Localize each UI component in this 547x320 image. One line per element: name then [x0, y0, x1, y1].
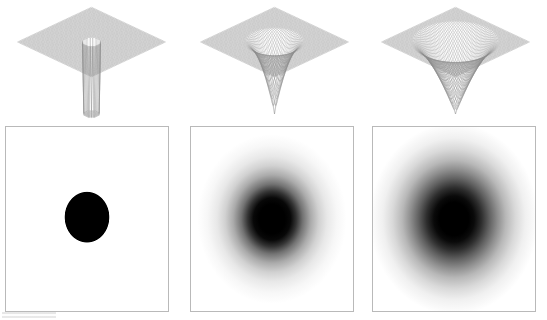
surface-panel-hard-well: [0, 0, 183, 122]
scan-artifact-smudge: [2, 312, 56, 318]
figure-panel-grid: [0, 0, 547, 320]
density-blob: [22, 144, 152, 291]
density-blob: [373, 127, 535, 311]
surface-mesh-narrow-funnel: [183, 0, 366, 122]
density-map-wide-blob: [373, 127, 535, 311]
density-panel-narrow-blob: [190, 126, 354, 312]
density-map-hard-disk: [6, 127, 168, 311]
density-panel-wide-blob: [372, 126, 536, 312]
surface-plot-row: [0, 0, 547, 122]
surface-mesh-wide-funnel: [364, 0, 547, 122]
surface-panel-wide-funnel: [364, 0, 547, 122]
density-panel-hard-disk: [5, 126, 169, 312]
density-blob: [197, 134, 346, 303]
density-map-row: [0, 124, 547, 320]
surface-panel-narrow-funnel: [183, 0, 366, 122]
density-map-narrow-blob: [191, 127, 353, 311]
surface-mesh-hard-well: [0, 0, 183, 122]
